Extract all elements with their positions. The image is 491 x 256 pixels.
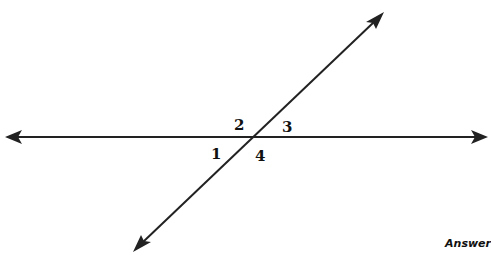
angle-label-4: 4 [255,149,265,164]
angle-label-3: 3 [282,120,292,135]
transversal-line [143,22,374,242]
angle-label-1: 1 [211,147,221,162]
intersecting-lines-figure [0,0,491,256]
answer-label: Answer [445,237,491,250]
angle-label-2: 2 [234,118,244,133]
